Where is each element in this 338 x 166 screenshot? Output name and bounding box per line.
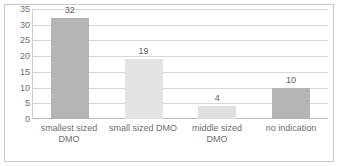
bar-no-indication[interactable] — [272, 88, 310, 119]
y-tick-label: 15 — [6, 67, 30, 76]
bar-value-label: 19 — [139, 47, 149, 56]
bar-value-label: 32 — [65, 6, 75, 15]
y-tick-label: 10 — [6, 83, 30, 92]
bar-chart-figure: 35 30 25 20 15 10 5 0 32 19 4 — [0, 0, 338, 166]
x-axis: smallest sized DMO small sized DMO middl… — [32, 123, 328, 155]
x-tick-label: middle sized DMO — [180, 123, 254, 155]
bar-value-label: 10 — [286, 76, 296, 85]
y-axis: 35 30 25 20 15 10 5 0 — [6, 9, 30, 119]
bar-group-middle-sized-dmo: 4 — [181, 9, 255, 119]
y-tick-label: 0 — [6, 115, 30, 124]
bar-group-no-indication: 10 — [254, 9, 328, 119]
y-tick-label: 35 — [6, 5, 30, 14]
bar-group-smallest-sized-dmo: 32 — [33, 9, 107, 119]
bar-middle-sized-dmo[interactable] — [198, 106, 236, 119]
y-tick-label: 20 — [6, 52, 30, 61]
bar-smallest-sized-dmo[interactable] — [51, 18, 89, 119]
plot-area: 32 19 4 10 — [32, 9, 328, 119]
bar-value-label: 4 — [215, 94, 220, 103]
x-tick-label: no indication — [254, 123, 328, 155]
bar-group-small-sized-dmo: 19 — [107, 9, 181, 119]
bars-layer: 32 19 4 10 — [33, 9, 328, 119]
y-tick-label: 25 — [6, 36, 30, 45]
x-tick-label: smallest sized DMO — [32, 123, 106, 155]
bar-small-sized-dmo[interactable] — [125, 59, 163, 119]
x-tick-label: small sized DMO — [106, 123, 180, 155]
y-tick-label: 5 — [6, 99, 30, 108]
y-tick-label: 30 — [6, 20, 30, 29]
